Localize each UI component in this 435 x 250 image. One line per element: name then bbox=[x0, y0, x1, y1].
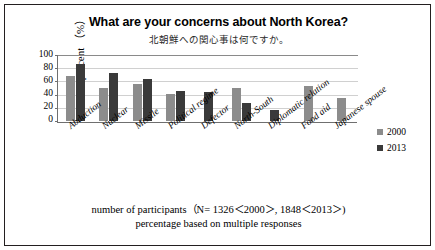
y-tickmark bbox=[55, 81, 58, 82]
legend-label: 2000 bbox=[387, 127, 406, 137]
legend-label: 2013 bbox=[387, 143, 406, 153]
page-subtitle: 北朝鮮への関心事は何ですか。 bbox=[5, 32, 432, 46]
y-tickmark bbox=[55, 68, 58, 69]
y-tickmark bbox=[55, 55, 58, 56]
chart-frame: What are your concerns about North Korea… bbox=[4, 4, 431, 246]
footnote-line-2: percentage based on multiple responses bbox=[5, 217, 432, 231]
legend-swatch-icon bbox=[377, 129, 383, 135]
y-tick-label: 60 bbox=[25, 75, 53, 85]
page-title: What are your concerns about North Korea… bbox=[5, 15, 432, 29]
chart-footnote: number of participants（N= 1326＜2000＞, 18… bbox=[5, 203, 432, 231]
chart-page: What are your concerns about North Korea… bbox=[0, 0, 435, 250]
legend-item-2013: 2013 bbox=[377, 143, 429, 153]
legend-swatch-icon bbox=[377, 145, 383, 151]
y-tick-label: 20 bbox=[25, 101, 53, 111]
y-tick-label: 100 bbox=[25, 49, 53, 59]
x-axis-labels: AbductionNuclearMissilePolitical regimeD… bbox=[57, 123, 367, 203]
legend-item-2000: 2000 bbox=[377, 127, 429, 137]
y-tick-label: 80 bbox=[25, 62, 53, 72]
y-tickmark bbox=[55, 95, 58, 96]
footnote-line-1: number of participants（N= 1326＜2000＞, 18… bbox=[5, 203, 432, 217]
y-tick-label: 40 bbox=[25, 88, 53, 98]
bar bbox=[133, 84, 142, 121]
y-axis-ticks: 100 80 60 40 20 0 bbox=[25, 49, 53, 129]
y-tick-label: 0 bbox=[25, 114, 53, 124]
legend: 2000 2013 bbox=[377, 127, 429, 159]
bar bbox=[66, 76, 75, 121]
y-tickmark bbox=[55, 108, 58, 109]
y-tickmark bbox=[55, 121, 58, 122]
